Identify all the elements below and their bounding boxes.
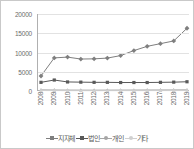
x-axis-tick-label: 2018 — [169, 92, 176, 105]
x-axis-tick-label: 2012 — [90, 92, 97, 105]
legend-label: 지자체 — [58, 133, 75, 143]
data-point — [65, 55, 70, 60]
data-point — [53, 78, 56, 81]
legend-label: 기타 — [137, 133, 148, 143]
legend-item-3[interactable]: 개인 — [100, 133, 123, 143]
x-axis: 2008200920102011201220132014201520162017… — [37, 92, 189, 124]
data-point — [39, 81, 42, 84]
data-point — [106, 81, 109, 84]
legend-label: 법인 — [88, 133, 99, 143]
y-axis-tick-label: 0 — [29, 88, 32, 95]
gridline — [38, 72, 189, 73]
legend-item-1[interactable]: 지자체 — [46, 133, 75, 143]
legend-marker-icon — [76, 134, 88, 142]
chart-legend: 지자체법인개인기타 — [1, 131, 193, 145]
data-point — [78, 57, 83, 62]
series-line — [41, 80, 187, 83]
data-point — [119, 81, 122, 84]
gridline — [38, 33, 189, 34]
x-axis-tick-label: 2011 — [76, 92, 83, 105]
data-point — [158, 41, 163, 46]
x-axis-tick-label: 2013 — [103, 92, 110, 105]
data-point — [185, 80, 188, 83]
data-point — [92, 56, 97, 61]
x-axis-tick-label: 2009 — [50, 92, 57, 105]
legend-item-4[interactable]: 기타 — [125, 133, 148, 143]
chart-container: 05000100001500020000 2008200920102011201… — [0, 0, 194, 149]
data-point — [132, 81, 135, 84]
legend-item-2[interactable]: 법인 — [76, 133, 99, 143]
y-axis-tick-label: 20000 — [15, 11, 32, 18]
plot-area — [37, 14, 189, 91]
x-axis-tick-label: 2015 — [129, 92, 136, 105]
legend-marker-icon — [46, 134, 58, 142]
legend-marker-icon — [100, 134, 112, 142]
y-axis-tick-label: 5000 — [18, 68, 32, 75]
data-point — [159, 81, 162, 84]
y-axis: 05000100001500020000 — [1, 14, 35, 91]
data-point — [145, 44, 150, 49]
data-point — [118, 53, 123, 58]
data-point — [79, 81, 82, 84]
gridline — [38, 53, 189, 54]
x-axis-tick-label: 2019 — [183, 92, 190, 105]
gridline — [38, 14, 189, 15]
data-point — [105, 56, 110, 61]
x-axis-tick-label: 2017 — [156, 92, 163, 105]
series-2 — [39, 78, 188, 84]
y-axis-tick-label: 15000 — [15, 30, 32, 37]
x-axis-tick-label: 2016 — [143, 92, 150, 105]
legend-label: 개인 — [112, 133, 123, 143]
x-axis-tick-label: 2010 — [63, 92, 70, 105]
y-axis-tick-label: 10000 — [15, 49, 32, 56]
data-point — [92, 81, 95, 84]
legend-marker-icon — [125, 134, 137, 142]
x-axis-tick-label: 2014 — [116, 92, 123, 105]
x-axis-tick-label: 2008 — [37, 92, 44, 105]
data-point — [66, 80, 69, 83]
data-point — [146, 81, 149, 84]
data-point — [172, 81, 175, 84]
